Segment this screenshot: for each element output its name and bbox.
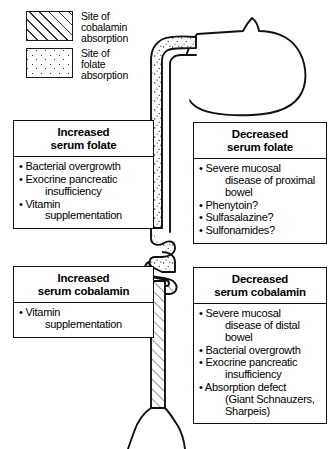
bullet-icon: • xyxy=(199,224,203,236)
list-item-text: Phenytoin? xyxy=(205,199,258,211)
box-title-line: serum folate xyxy=(17,139,150,152)
bullet-icon: • xyxy=(19,198,23,210)
box-title: Increased serum cobalamin xyxy=(14,267,153,303)
list-item-text: Exocrine pancreatic xyxy=(205,356,297,368)
hatch-swatch-icon xyxy=(26,11,73,41)
bullet-icon: • xyxy=(199,211,203,223)
legend-label-cobalamin: Site of cobalamin absorption xyxy=(81,11,128,43)
stomach-outline xyxy=(183,18,305,115)
list-item-text: Sulfasalazine? xyxy=(205,211,273,223)
list-item: • Bacterial overgrowth xyxy=(19,161,149,173)
list-item-cont: Sharpeis) xyxy=(208,406,322,418)
list-item-cont: disease of proximal xyxy=(208,175,322,187)
legend-item-folate: Site of folate absorption xyxy=(26,48,166,80)
list-item-text: Bacterial overgrowth xyxy=(205,344,300,356)
list-item-cont: disease of distal xyxy=(208,320,322,332)
list-item-text: Bacterial overgrowth xyxy=(25,160,120,172)
list-item-text: Absorption defect xyxy=(205,381,286,393)
list-item-text: Sulfonamides? xyxy=(205,224,275,236)
box-title-line: Decreased xyxy=(197,128,323,141)
legend-label-folate: Site of folate absorption xyxy=(81,48,128,80)
bullet-icon: • xyxy=(199,356,203,368)
list-item-text: Severe mucosal xyxy=(205,162,280,174)
box-body: • Bacterial overgrowth • Exocrine pancre… xyxy=(14,157,153,228)
legend-line: cobalamin xyxy=(81,22,128,33)
box-title: Decreased serum cobalamin xyxy=(194,268,326,304)
list-item: • Severe mucosal disease of proximal bow… xyxy=(199,163,322,198)
list-item-text: Vitamin xyxy=(25,306,60,318)
box-increased-serum-cobalamin: Increased serum cobalamin • Vitamin supp… xyxy=(13,266,154,338)
box-title-line: Decreased xyxy=(197,273,323,286)
list-item-cont: supplementation xyxy=(28,210,149,222)
bullet-icon: • xyxy=(19,160,23,172)
list-item: • Exocrine pancreatic insufficiency xyxy=(199,357,322,381)
list-item-cont: bowel xyxy=(208,332,322,344)
legend-item-cobalamin: Site of cobalamin absorption xyxy=(26,11,166,43)
list-item: • Sulfonamides? xyxy=(199,225,322,237)
box-decreased-serum-folate: Decreased serum folate • Severe mucosal … xyxy=(193,122,327,244)
list-item: • Vitamin supplementation xyxy=(19,199,149,223)
list-item-cont: supplementation xyxy=(28,319,149,331)
list-item-text: Severe mucosal xyxy=(205,307,280,319)
bullet-icon: • xyxy=(19,173,23,185)
box-decreased-serum-cobalamin: Decreased serum cobalamin • Severe mucos… xyxy=(193,267,327,424)
list-item: • Bacterial overgrowth xyxy=(199,345,322,357)
list-item-text: Vitamin xyxy=(25,198,60,210)
list-item: • Sulfasalazine? xyxy=(199,212,322,224)
box-title-line: serum folate xyxy=(197,141,323,154)
bullet-icon: • xyxy=(199,381,203,393)
list-item-cont: insufficiency xyxy=(208,369,322,381)
box-body: • Vitamin supplementation xyxy=(14,303,153,337)
diagram-canvas: Site of cobalamin absorption Site of fol… xyxy=(0,0,335,449)
box-title-line: serum cobalamin xyxy=(197,286,323,299)
list-item: • Absorption defect (Giant Schnauzers, S… xyxy=(199,382,322,417)
bullet-icon: • xyxy=(199,307,203,319)
list-item-cont: bowel xyxy=(208,187,322,199)
list-item: • Phenytoin? xyxy=(199,200,322,212)
bullet-icon: • xyxy=(199,199,203,211)
stipple-swatch-icon xyxy=(26,48,73,78)
list-item-cont: insufficiency xyxy=(28,186,149,198)
box-title: Increased serum folate xyxy=(14,121,153,157)
legend-line: absorption xyxy=(81,70,128,81)
list-item: • Exocrine pancreatic insufficiency xyxy=(19,174,149,198)
list-item: • Severe mucosal disease of distal bowel xyxy=(199,308,322,343)
box-title: Decreased serum folate xyxy=(194,123,326,159)
box-body: • Severe mucosal disease of proximal bow… xyxy=(194,159,326,243)
box-body: • Severe mucosal disease of distal bowel… xyxy=(194,304,326,423)
list-item-cont: (Giant Schnauzers, xyxy=(208,394,322,406)
legend-line: absorption xyxy=(81,33,128,44)
bullet-icon: • xyxy=(199,344,203,356)
list-item: • Vitamin supplementation xyxy=(19,307,149,331)
bullet-icon: • xyxy=(199,162,203,174)
bullet-icon: • xyxy=(19,306,23,318)
box-title-line: Increased xyxy=(17,272,150,285)
box-increased-serum-folate: Increased serum folate • Bacterial overg… xyxy=(13,120,154,229)
list-item-text: Exocrine pancreatic xyxy=(25,173,117,185)
colon-rectum xyxy=(128,408,151,449)
colon-rectum-right xyxy=(165,408,185,449)
box-title-line: serum cobalamin xyxy=(17,285,150,298)
box-title-line: Increased xyxy=(17,126,150,139)
legend: Site of cobalamin absorption Site of fol… xyxy=(26,11,166,86)
